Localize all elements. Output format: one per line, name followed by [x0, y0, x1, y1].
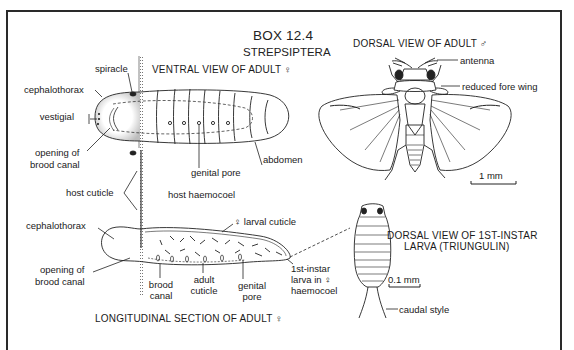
label-host-haemocoel: host haemocoel	[168, 189, 235, 200]
ventral-heading: VENTRAL VIEW OF ADULT ♀	[152, 64, 292, 75]
longitudinal-section	[102, 227, 291, 265]
triungulin-heading-2: LARVA (TRIUNGULIN)	[404, 241, 509, 252]
label-brood-canal: brood canal	[30, 159, 80, 170]
ventral-female-body	[95, 89, 289, 155]
label-brood: brood	[144, 279, 178, 290]
scale-label-1mm: 1 mm	[479, 170, 503, 181]
label-reduced-fore-wing: reduced fore wing	[462, 81, 538, 92]
label-abdomen: abdomen	[263, 154, 303, 165]
male-leaders	[437, 60, 460, 86]
male-heading: DORSAL VIEW OF ADULT ♂	[353, 38, 488, 49]
dorsal-male-body	[319, 58, 511, 180]
label-opening-of: opening of	[35, 147, 79, 158]
label-genital: genital	[235, 280, 269, 291]
label-first-instar: 1st-instar	[291, 263, 330, 274]
label-larva-in: larva in ♀	[291, 274, 331, 285]
label-pore: pore	[235, 291, 269, 302]
label-canal: canal	[144, 290, 178, 301]
label-haemocoel: haemocoel	[291, 285, 337, 296]
section-heading: LONGITUDINAL SECTION OF ADULT ♀	[95, 313, 283, 324]
label-genital-pore: genital pore	[191, 167, 241, 178]
label-spiracle: spiracle	[95, 63, 128, 74]
label-antenna: antenna	[460, 55, 494, 66]
label-section-opening-of: opening of	[40, 264, 84, 275]
host-cuticle-leaders	[124, 171, 137, 210]
box-number: BOX 12.4	[253, 28, 313, 43]
label-cephalothorax: cephalothorax	[24, 84, 84, 95]
label-vestigial: vestigial	[34, 111, 74, 122]
label-section-brood-canal: brood canal	[35, 276, 85, 287]
label-adult-cuticle: cuticle	[188, 285, 220, 296]
box-subject: STREPSIPTERA	[243, 46, 331, 58]
label-adult: adult	[188, 274, 220, 285]
label-host-cuticle: host cuticle	[66, 187, 114, 198]
scale-label-0.1mm: 0.1 mm	[388, 274, 420, 285]
label-larval-cuticle: ♀ larval cuticle	[234, 216, 296, 227]
label-section-cephalothorax: cephalothorax	[26, 220, 86, 231]
triungulin-body	[354, 204, 391, 318]
scale-bar-1mm	[471, 181, 516, 184]
label-caudal-style: caudal style	[399, 304, 449, 315]
triungulin-heading-1: DORSAL VIEW OF 1ST-INSTAR	[387, 230, 538, 241]
